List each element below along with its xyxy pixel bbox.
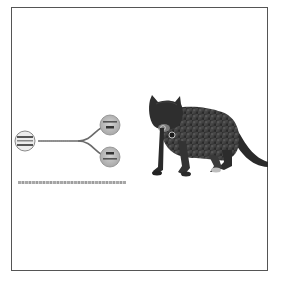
node-source-label-line-2 [17, 140, 33, 142]
node-top-label-line-2 [106, 126, 114, 129]
node-source-label-line-1 [17, 136, 33, 138]
node-bottom-label-line-2 [103, 158, 117, 160]
edge-to-top [38, 128, 101, 141]
node-branch-bottom [100, 147, 120, 167]
node-source-label-line-3 [17, 144, 33, 146]
cat-photo [149, 95, 268, 177]
cat-front-leg-left [153, 128, 164, 174]
edge-to-bottom [78, 141, 101, 154]
node-source [15, 131, 35, 151]
cat-front-paw [152, 171, 162, 176]
node-top-label-line-1 [103, 121, 117, 123]
diagram-caption [18, 181, 126, 184]
cat-front-paw-right [181, 172, 191, 177]
cat-white-paw [211, 168, 221, 173]
collar-tag-icon [169, 132, 175, 138]
node-bottom-label-line-1 [106, 152, 114, 155]
diagram-edges [38, 128, 101, 154]
node-branch-top [100, 115, 120, 135]
figure-canvas [0, 0, 287, 288]
